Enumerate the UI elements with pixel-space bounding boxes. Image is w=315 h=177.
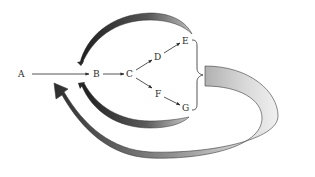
node-c: C bbox=[126, 69, 133, 79]
edge-c-f bbox=[136, 78, 152, 88]
node-labels: A B C D E F G bbox=[17, 36, 189, 113]
node-a: A bbox=[17, 69, 25, 79]
grouping-brace bbox=[192, 40, 203, 110]
lower-feedback-arrow bbox=[78, 82, 189, 128]
node-g: G bbox=[182, 103, 189, 113]
node-e: E bbox=[182, 36, 189, 46]
large-feedback-loop-arrow bbox=[54, 66, 278, 158]
node-b: B bbox=[93, 69, 100, 79]
edge-d-e bbox=[164, 43, 180, 53]
feedback-flow-diagram: A B C D E F G bbox=[0, 0, 315, 177]
edge-f-g bbox=[164, 97, 180, 105]
node-d: D bbox=[154, 52, 161, 62]
node-f: F bbox=[155, 89, 161, 99]
edge-c-d bbox=[136, 60, 152, 70]
upper-feedback-arrow bbox=[77, 13, 192, 66]
